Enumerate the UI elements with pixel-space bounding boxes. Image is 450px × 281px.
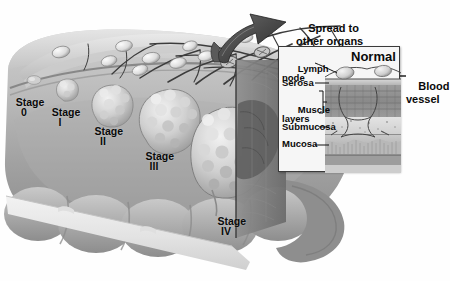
tumor-stage-0 — [27, 76, 41, 85]
inset-label-serosa: Serosa — [282, 78, 314, 88]
stage-3-label: StageIII — [132, 140, 176, 183]
inset-title-normal: Normal — [351, 50, 396, 63]
inset-label-submucosa: Submucosa — [282, 122, 336, 132]
normal-wall-inset-panel: Normal Lymphnode Serosa Musclelayers Sub… — [278, 46, 400, 172]
bowel-wall-block — [325, 79, 401, 173]
illustration-canvas: Stage0 StageI StageII StageIII StageIV S… — [0, 0, 450, 281]
stage-2-label: StageII — [82, 115, 124, 158]
stage-4-label: StageIV — [204, 205, 248, 248]
stage-0-label: Stage0 — [4, 86, 44, 129]
blood-vessel-label: Bloodvessel — [406, 68, 449, 117]
stage-1-label: StageI — [40, 96, 80, 139]
inset-label-mucosa: Mucosa — [282, 139, 317, 149]
